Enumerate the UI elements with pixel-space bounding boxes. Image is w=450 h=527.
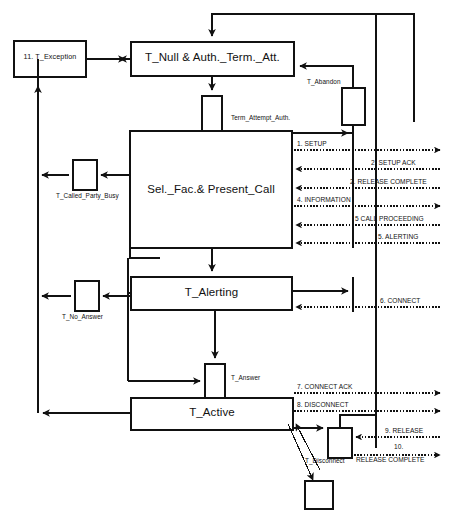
message-label-11-release-complete: RELEASE COMPLETE <box>356 456 420 464</box>
message-label-4-information: 4. INFORMATION <box>297 197 351 204</box>
transition-box-terminal <box>305 481 333 509</box>
message-label-3-release-complete: 2. RELEASE COMPLETE <box>350 179 427 186</box>
transition-box-term-attempt-auth <box>202 96 222 131</box>
transition-label-t-answer: T_Answer <box>231 375 260 382</box>
state-transition-diagram: 11. T_Exception T_Null & Auth._Term._Att… <box>0 0 450 527</box>
state-label-alerting: T_Alerting <box>131 286 292 298</box>
transition-label-t-disconnect: T_Disconnect <box>305 458 345 465</box>
transition-box-t-answer <box>205 364 225 398</box>
transition-box-t-no-answer <box>75 281 99 311</box>
message-label-7-connect: 6. CONNECT <box>380 298 420 305</box>
diagram-vector-layer <box>0 0 450 527</box>
edge-select-to-abandon <box>292 125 353 133</box>
state-label-active: T_Active <box>131 406 293 418</box>
transition-label-t-called-party-busy: T_Called_Party_Busy <box>56 193 119 200</box>
message-label-1-setup: 1. SETUP <box>297 141 327 148</box>
message-label-6-alerting: 5. ALERTING <box>378 234 418 241</box>
state-label-exception: 11. T_Exception <box>14 53 86 61</box>
state-label-null-auth: T_Null & Auth._Term._Att. <box>131 51 294 63</box>
transition-box-t-called-party-busy <box>73 160 97 190</box>
message-label-11-number: 10. <box>394 444 403 451</box>
transition-box-t-disconnect <box>328 428 352 458</box>
message-label-8-connect-ack: 7. CONNECT ACK <box>297 384 353 391</box>
transition-label-t-abandon: T_Abandon <box>307 79 341 86</box>
message-label-9-disconnect: 8. DISCONNECT <box>297 402 349 409</box>
message-label-2-setup-ack: 2. SETUP ACK <box>371 160 416 167</box>
edge-disconnect-up-rail <box>340 415 376 428</box>
transition-box-t-abandon <box>342 88 365 125</box>
message-label-5-call-proceeding: 5 CALL PROCEEDING <box>355 216 424 223</box>
edge-select-bottom-stub <box>130 248 160 258</box>
state-label-select-facility: Sel._Fac.& Present_Call <box>130 183 292 195</box>
transition-label-term-attempt-auth: Term_Attempt_Auth. <box>231 115 290 122</box>
message-label-10-release: 9. RELEASE <box>385 428 423 435</box>
transition-label-t-no-answer: T_No_Answer <box>62 314 103 321</box>
edge-return-to-null <box>212 14 414 122</box>
